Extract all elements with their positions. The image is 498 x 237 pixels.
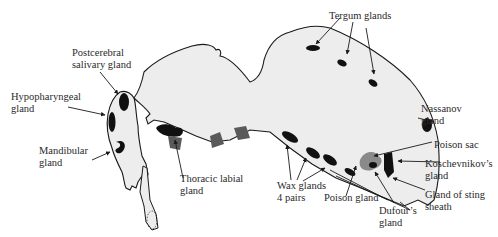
label-dufours-gland: Dufour’s gland bbox=[379, 205, 417, 228]
label-hypopharyngeal-gland: Hypopharyngeal gland bbox=[11, 91, 81, 114]
postcerebral-gland bbox=[119, 93, 129, 111]
label-thoracic-labial-gland: Thoracic labial gland bbox=[180, 173, 243, 196]
label-mandibular-gland: Mandibular gland bbox=[39, 145, 88, 168]
proboscis bbox=[140, 166, 158, 230]
label-gland-of-sting-sheath: Gland of sting sheath bbox=[425, 189, 485, 212]
label-postcerebral-salivary-gland: Postcerebral salivary gland bbox=[72, 47, 131, 70]
label-koschevnikovs-gland: Koschevnikov’s gland bbox=[425, 158, 493, 181]
tergum-gland-1 bbox=[306, 45, 320, 51]
label-nassanov-gland: Nassanov gland bbox=[421, 103, 462, 126]
dufour-gland-shape bbox=[369, 162, 377, 168]
label-poison-sac: Poison sac bbox=[434, 139, 479, 151]
hypopharyngeal-gland bbox=[109, 112, 116, 132]
label-wax-glands: Wax glands 4 pairs bbox=[277, 180, 326, 203]
thoracic-labial-gray bbox=[168, 136, 182, 150]
label-tergum-glands: Tergum glands bbox=[329, 10, 391, 22]
label-poison-gland: Poison gland bbox=[324, 192, 379, 204]
